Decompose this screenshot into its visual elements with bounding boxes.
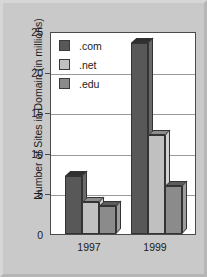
legend-item-net: .net <box>59 55 121 74</box>
legend-swatch-com-icon <box>59 40 70 51</box>
legend-label-net: .net <box>79 59 97 71</box>
bar-1997-edu <box>99 206 116 234</box>
legend-item-com: .com <box>59 36 121 55</box>
x-tick-label-1999: 1999 <box>135 241 175 253</box>
chart-figure: Number of Sites in Domain (in millions) … <box>0 0 207 277</box>
y-tick-label-10: 10 <box>17 148 43 160</box>
bar-front-face <box>148 135 165 234</box>
legend-item-edu: .edu <box>59 74 121 93</box>
bar-front-face <box>99 206 116 234</box>
y-tick-label-15: 15 <box>17 107 43 119</box>
bar-1999-com <box>131 43 148 234</box>
bar-1997-net <box>82 202 99 234</box>
gridline-10 <box>51 155 195 156</box>
legend-swatch-net-icon <box>59 59 70 70</box>
legend-swatch-edu-icon <box>59 78 70 89</box>
bar-1997-com <box>65 176 82 235</box>
bar-front-face <box>82 202 99 234</box>
y-tick-label-0: 0 <box>17 229 43 241</box>
legend-label-edu: .edu <box>79 78 99 90</box>
bar-front-face <box>65 176 82 235</box>
legend-label-com: .com <box>79 40 102 52</box>
y-tick-label-5: 5 <box>17 188 43 200</box>
bar-front-face <box>165 186 182 234</box>
bar-1999-net <box>148 135 165 234</box>
gridline-15 <box>51 114 195 115</box>
chart-legend: .com .net .edu <box>59 36 121 93</box>
y-tick-label-20: 20 <box>17 67 43 79</box>
bar-front-face <box>131 43 148 234</box>
bar-side-face <box>182 181 187 234</box>
bar-side-face <box>116 200 121 234</box>
bar-1999-edu <box>165 186 182 234</box>
x-tick-label-1997: 1997 <box>69 241 109 253</box>
y-tick-label-25: 25 <box>17 26 43 38</box>
